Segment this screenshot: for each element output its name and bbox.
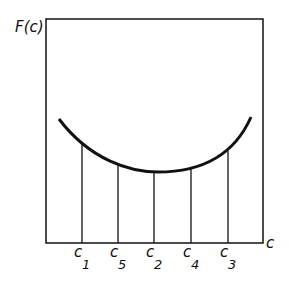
svg-text:1: 1 — [82, 257, 90, 272]
function-curve — [59, 117, 251, 172]
tick-label-c5: c 5 — [110, 243, 126, 272]
svg-text:3: 3 — [228, 257, 236, 272]
tick-label-c2: c 2 — [146, 243, 162, 272]
svg-text:2: 2 — [154, 257, 162, 272]
tick-label-c4: c 4 — [183, 243, 199, 272]
svg-text:4: 4 — [191, 257, 199, 272]
y-axis-label: F(c) — [15, 18, 44, 36]
x-axis-label: c — [266, 234, 275, 252]
tick-label-c3: c 3 — [220, 243, 236, 272]
diagram-canvas: F(c) c c 1 c 5 c 2 c 4 c 3 — [0, 0, 289, 285]
svg-text:5: 5 — [118, 257, 126, 272]
tick-label-c1: c 1 — [74, 243, 90, 272]
